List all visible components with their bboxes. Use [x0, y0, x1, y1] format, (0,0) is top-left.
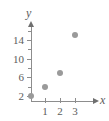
data-point: [42, 84, 48, 90]
x-axis-title: x: [100, 94, 105, 106]
x-tick: [60, 98, 61, 103]
y-tick-minor: [28, 68, 32, 69]
y-tick-major: [27, 59, 32, 60]
plot-area: y x 14 10 6 2 1 2 3: [0, 0, 109, 121]
y-tick-minor: [28, 49, 32, 50]
y-tick-minor: [28, 87, 32, 88]
scatter-plot-figure: y x 14 10 6 2 1 2 3: [0, 0, 109, 121]
data-point: [28, 93, 34, 99]
y-tick-major: [27, 77, 32, 78]
x-tick-label: 1: [38, 106, 52, 117]
x-tick: [45, 98, 46, 103]
x-tick-label: 2: [53, 106, 67, 117]
data-point: [72, 32, 78, 38]
y-tick-label: 10: [4, 54, 24, 65]
y-axis-line: [31, 26, 32, 102]
y-axis-arrowhead-icon: [28, 21, 34, 27]
x-tick-label: 3: [68, 106, 82, 117]
x-tick: [75, 98, 76, 103]
y-tick-minor: [28, 31, 32, 32]
y-tick-label: 14: [4, 35, 24, 46]
y-tick-major: [27, 40, 32, 41]
y-axis-title: y: [26, 7, 31, 19]
x-axis-line: [31, 101, 94, 102]
y-tick-label: 6: [4, 72, 24, 83]
data-point: [57, 70, 63, 76]
x-axis-arrowhead-icon: [93, 98, 99, 104]
y-tick-label: 2: [4, 91, 24, 102]
